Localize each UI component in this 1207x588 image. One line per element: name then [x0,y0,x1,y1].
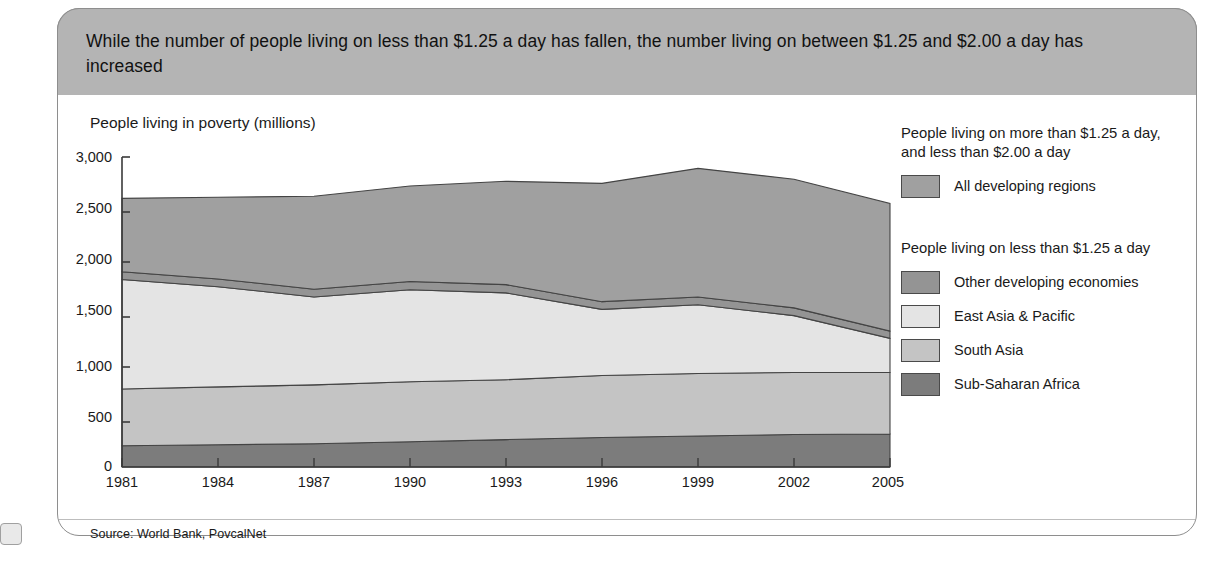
legend-label-all-developing-regions: All developing regions [954,178,1096,194]
source-note: Source: World Bank, PovcalNet [90,527,266,541]
legend-swatch-other-developing-economies [901,271,940,294]
legend-label-sub-saharan-africa: Sub-Saharan Africa [954,376,1080,392]
legend-item-all-developing-regions[interactable]: All developing regions [901,169,1181,203]
legend-group2-heading: People living on less than $1.25 a day [901,239,1181,258]
legend-item-other-developing-economies[interactable]: Other developing economies [901,265,1181,299]
chart-legend: People living on more than $1.25 a day, … [901,124,1181,401]
legend-item-east-asia-pacific[interactable]: East Asia & Pacific [901,299,1181,333]
legend-item-south-asia[interactable]: South Asia [901,333,1181,367]
legend-label-south-asia: South Asia [954,342,1023,358]
area-bands [122,168,890,467]
legend-group1-heading: People living on more than $1.25 a day, … [901,124,1181,162]
legend-spacer [901,203,1181,239]
screenshot-root: While the number of people living on les… [0,0,1207,588]
legend-swatch-sub-saharan-africa [901,373,940,396]
source-divider [59,519,1195,520]
legend-swatch-all-developing-regions [901,175,940,198]
legend-swatch-east-asia-pacific [901,305,940,328]
legend-label-east-asia-pacific: East Asia & Pacific [954,308,1075,324]
legend-swatch-south-asia [901,339,940,362]
legend-item-sub-saharan-africa[interactable]: Sub-Saharan Africa [901,367,1181,401]
legend-label-other-developing-economies: Other developing economies [954,274,1139,290]
